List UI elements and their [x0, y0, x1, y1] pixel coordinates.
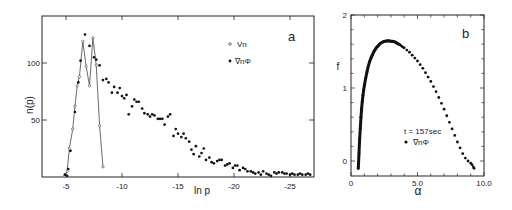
panel-b: 05.010.0012 f α b t = 157sec ∇nΦ [337, 11, 493, 198]
panel-b-x-axis-label: α [415, 184, 422, 198]
grad-phi-point [127, 113, 130, 116]
grad-phi-point [220, 159, 223, 162]
f-alpha-point [427, 76, 430, 79]
f-alpha-point [473, 167, 476, 170]
f-alpha-point [364, 77, 367, 80]
grad-phi-point [188, 140, 191, 143]
f-alpha-point [429, 80, 432, 83]
f-alpha-point [359, 127, 362, 130]
y-tick-label: 0 [343, 157, 348, 166]
vn-point [85, 65, 87, 67]
grad-phi-point [182, 132, 185, 135]
f-alpha-point [368, 60, 371, 63]
panel-a: -5-10-15-20-2550100 n(p) ln p a Vn ∇nΦ [24, 16, 314, 196]
vn-point [92, 37, 94, 39]
grad-phi-point [118, 87, 121, 90]
panel-a-ticks: -5-10-15-20-2550100 [27, 16, 314, 191]
grad-phi-point [133, 98, 136, 101]
x-tick-label: -20 [228, 182, 240, 191]
grad-phi-point [246, 170, 249, 173]
y-tick-label: 1 [343, 84, 348, 93]
grad-phi-point [153, 114, 156, 117]
time-annotation: t = 157sec [404, 127, 441, 136]
grad-phi-point [257, 171, 260, 174]
vn-point [66, 170, 68, 172]
grad-phi-point [95, 58, 98, 61]
grad-phi-point [67, 168, 70, 171]
f-alpha-point [357, 167, 360, 170]
grad-phi-point [232, 167, 235, 170]
f-alpha-point [435, 90, 438, 93]
grad-phi-point [238, 169, 241, 172]
grad-phi-point [84, 33, 87, 36]
y-tick-label: 100 [27, 59, 41, 68]
y-tick-label: 2 [343, 11, 348, 20]
x-tick-label: -10 [116, 182, 128, 191]
grad-phi-point [107, 81, 110, 84]
vn-line [65, 38, 103, 176]
legend-filled-circle-icon [404, 140, 407, 143]
vn-point [82, 40, 84, 42]
f-alpha-point [440, 102, 443, 105]
grad-phi-point [105, 78, 108, 81]
grad-phi-point [123, 97, 126, 100]
panel-b-y-axis-label: f [337, 61, 340, 72]
f-alpha-point [403, 46, 406, 49]
legend-open-circle-icon [229, 43, 232, 46]
vn-point [102, 166, 104, 168]
grad-phi-point [66, 175, 69, 178]
grad-phi-point [121, 95, 124, 98]
grad-phi-point [102, 79, 105, 82]
grad-phi-point [184, 137, 187, 140]
grad-phi-point [177, 132, 180, 135]
legend-grad-phi-label: ∇nΦ [234, 57, 251, 66]
f-alpha-series-points [357, 40, 476, 170]
grad-phi-point [236, 164, 239, 167]
grad-phi-point [260, 173, 263, 176]
grad-phi-point [192, 153, 195, 156]
f-alpha-point [360, 107, 363, 110]
grad-phi-point [98, 64, 101, 67]
f-alpha-point [456, 141, 459, 144]
grad-phi-point [262, 170, 265, 173]
f-alpha-point [437, 96, 440, 99]
grad-phi-point [169, 113, 172, 116]
grad-phi-point [254, 172, 257, 175]
x-tick-label: 0 [349, 179, 354, 188]
grad-phi-point [212, 162, 215, 165]
figure: -5-10-15-20-2550100 n(p) ln p a Vn ∇nΦ 0… [0, 0, 512, 210]
grad-phi-point [88, 45, 91, 48]
grad-phi-point [202, 147, 205, 150]
grad-phi-point [301, 173, 304, 176]
grad-phi-series-points [64, 33, 312, 177]
f-alpha-dense-curve [358, 41, 399, 168]
vn-series-line [65, 38, 103, 176]
grad-phi-point [190, 148, 193, 151]
x-tick-label: -5 [62, 182, 70, 191]
panel-b-ticks: 05.010.0012 [343, 11, 493, 188]
f-alpha-point [358, 138, 361, 141]
grad-phi-point [69, 149, 72, 152]
vn-point [98, 125, 100, 127]
grad-phi-point [228, 162, 231, 165]
panel-b-label: b [462, 26, 469, 41]
grad-phi-point [111, 91, 114, 94]
grad-phi-point [163, 123, 166, 126]
f-alpha-point [413, 57, 416, 60]
grad-phi-point [244, 168, 247, 171]
grad-phi-point [93, 56, 96, 59]
f-alpha-point [453, 134, 456, 137]
vn-point [78, 75, 80, 77]
grad-phi-point [180, 136, 183, 139]
grad-phi-point [131, 105, 134, 108]
legend-filled-circle-icon [229, 60, 232, 63]
grad-phi-point [200, 152, 203, 155]
vn-point [68, 147, 70, 149]
f-alpha-point [362, 89, 365, 92]
f-alpha-point [411, 54, 414, 57]
grad-phi-point [74, 111, 77, 114]
y-tick-label: 50 [31, 116, 40, 125]
grad-phi-point [195, 145, 198, 148]
vn-point [95, 64, 97, 66]
grad-phi-point [208, 156, 211, 159]
